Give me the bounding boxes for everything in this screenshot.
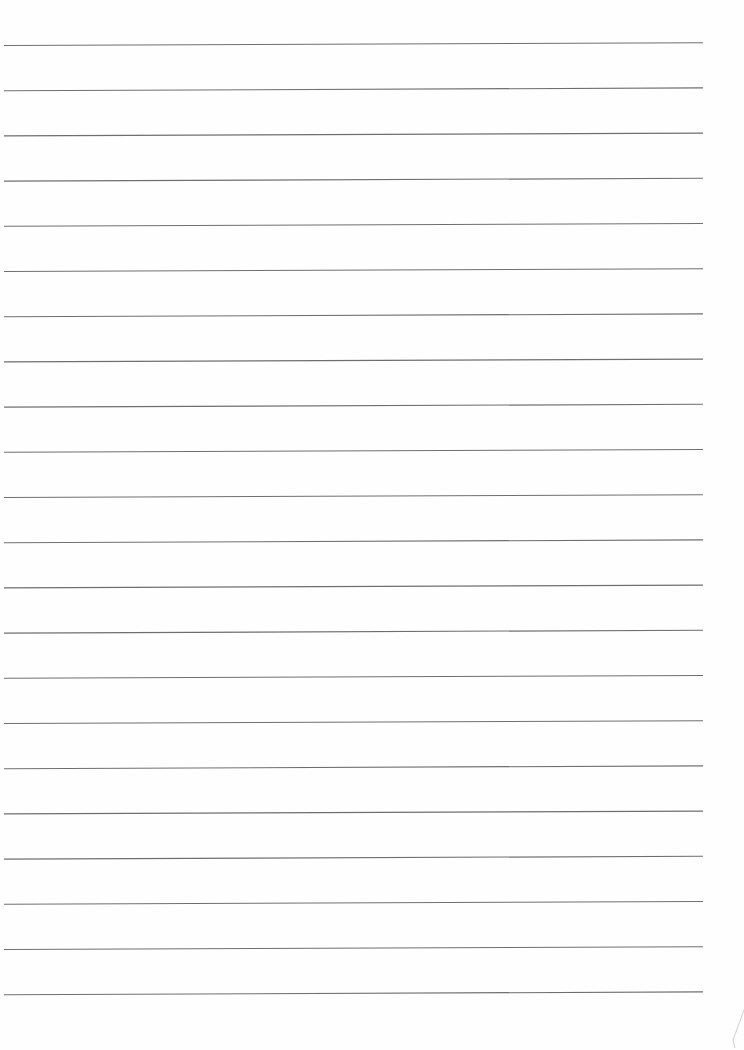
ruled-line bbox=[4, 88, 703, 91]
ruled-line bbox=[4, 359, 703, 362]
ruled-line bbox=[4, 43, 703, 46]
ruled-line bbox=[4, 676, 703, 679]
ruled-line bbox=[4, 947, 703, 950]
ruled-line bbox=[4, 766, 703, 769]
ruled-line bbox=[4, 721, 703, 724]
ruled-line bbox=[4, 992, 703, 995]
ruled-line bbox=[4, 404, 703, 407]
ruled-line bbox=[4, 133, 703, 136]
ruled-line bbox=[4, 269, 703, 272]
lined-paper-sheet bbox=[0, 0, 744, 1050]
ruled-line bbox=[4, 540, 703, 543]
ruled-line bbox=[4, 178, 703, 181]
ruled-line bbox=[4, 811, 703, 814]
ruled-line bbox=[4, 585, 703, 588]
ruled-line bbox=[4, 314, 703, 317]
ruled-line bbox=[4, 224, 703, 227]
ruled-line bbox=[4, 450, 703, 453]
ruled-line bbox=[4, 856, 703, 859]
ruled-line bbox=[4, 630, 703, 633]
ruled-line bbox=[4, 495, 703, 498]
ruled-line bbox=[4, 902, 703, 905]
ruled-lines bbox=[0, 0, 744, 1050]
